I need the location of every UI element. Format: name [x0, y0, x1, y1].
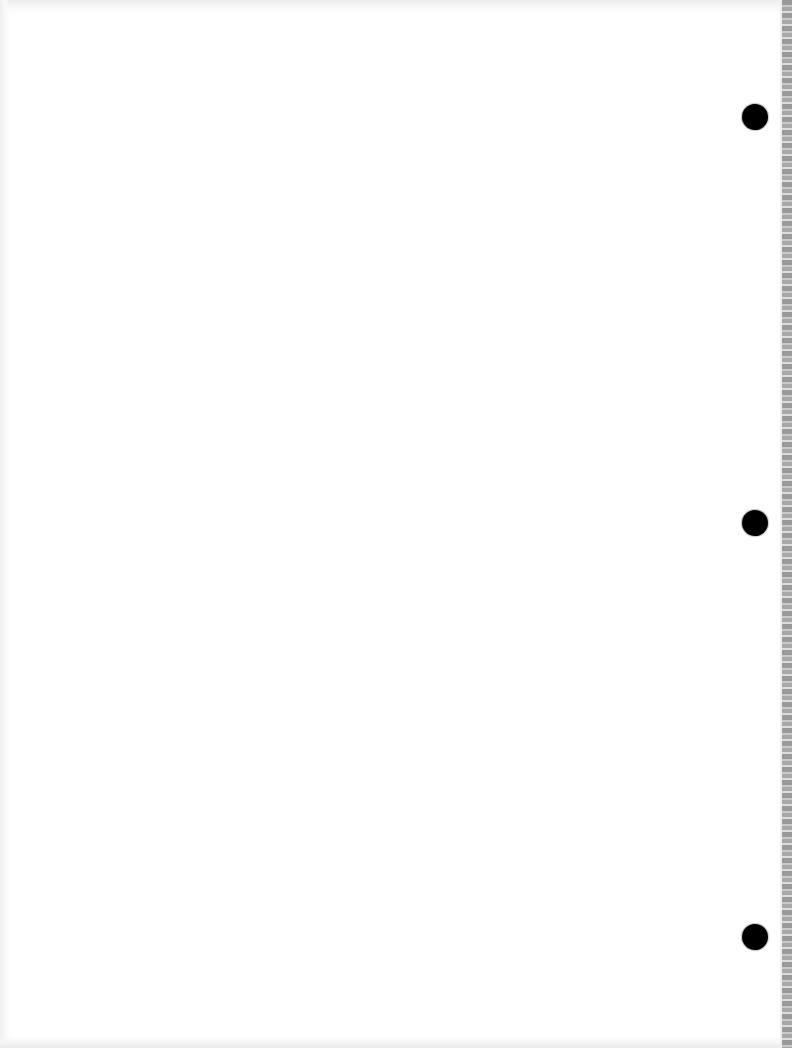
scan-shadow-left: [0, 0, 10, 1048]
punch-hole-bottom: [742, 924, 768, 950]
scan-shadow-top: [0, 0, 792, 14]
punch-hole-middle: [742, 510, 768, 536]
notebook-page: [0, 0, 792, 1048]
perforated-right-edge: [780, 0, 792, 1048]
punch-hole-top: [742, 104, 768, 130]
scan-shadow-bottom: [0, 1036, 792, 1048]
